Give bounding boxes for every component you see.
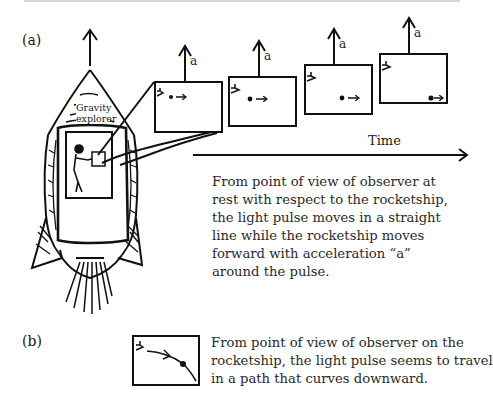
caption-b-line: in a path that curves downward.: [211, 370, 493, 388]
part-a-label: (a): [22, 32, 41, 48]
time-axis-arrow: [193, 149, 467, 161]
caption-a-line: the light pulse moves in a straight: [212, 209, 448, 227]
caption-a-line: From point of view of observer at: [212, 173, 448, 191]
acceleration-label-3: a: [339, 37, 346, 51]
caption-a: From point of view of observer at rest w…: [212, 173, 448, 281]
frame-b-curved-path: [133, 336, 199, 385]
caption-a-line: rest with respect to the rocketship,: [212, 191, 448, 209]
acceleration-label-2: a: [264, 49, 271, 63]
rocket-acceleration-arrow: [83, 30, 97, 66]
rocket-name-line-1: Gravity: [76, 102, 110, 113]
caption-b-line: rocketship, the light pulse seems to tra…: [211, 352, 493, 370]
time-axis-label: Time: [368, 133, 401, 148]
caption-a-line: line while the rocketship moves: [212, 227, 448, 245]
caption-a-line: forward with acceleration “a”: [212, 245, 448, 263]
caption-b: From point of view of observer on the ro…: [211, 334, 493, 388]
person-icon: [74, 145, 94, 192]
rocket-name-label: Gravity explorer: [76, 102, 110, 124]
frame-2: [229, 41, 296, 126]
acceleration-label-4: a: [414, 26, 421, 40]
frame-1: [155, 46, 222, 132]
rocket-name-line-2: explorer: [76, 113, 110, 124]
caption-b-line: From point of view of observer on the: [211, 334, 493, 352]
acceleration-label-1: a: [190, 54, 197, 68]
part-b-label: (b): [22, 333, 42, 349]
caption-a-line: around the pulse.: [212, 263, 448, 281]
